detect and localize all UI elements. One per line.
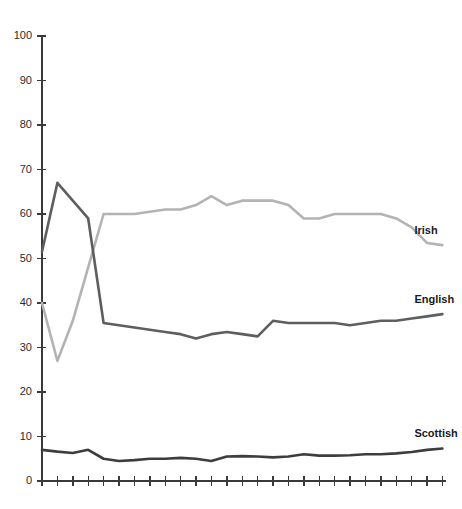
y-tick-label: 20 [20,385,32,397]
y-axis: 0102030405060708090100 [14,29,46,486]
y-tick-label: 90 [20,74,32,86]
y-tick-label: 60 [20,207,32,219]
line-chart-figure: 0102030405060708090100 IrishEnglishScott… [0,0,462,509]
chart-canvas: 0102030405060708090100 IrishEnglishScott… [0,0,462,509]
series-line-irish [42,196,442,361]
series-label-scottish: Scottish [414,427,458,439]
y-tick-label: 80 [20,118,32,130]
y-tick-label: 50 [20,252,32,264]
series-label-english: English [414,293,454,305]
series-lines [42,183,442,461]
x-axis [42,476,446,486]
y-tick-label: 10 [20,430,32,442]
y-tick-label: 70 [20,163,32,175]
series-line-scottish [42,449,442,461]
y-tick-label: 40 [20,296,32,308]
series-end-labels: IrishEnglishScottish [414,224,458,439]
series-label-irish: Irish [414,224,438,236]
y-tick-label: 30 [20,341,32,353]
y-tick-label: 100 [14,29,32,41]
series-line-english [42,183,442,339]
y-tick-label: 0 [26,474,32,486]
